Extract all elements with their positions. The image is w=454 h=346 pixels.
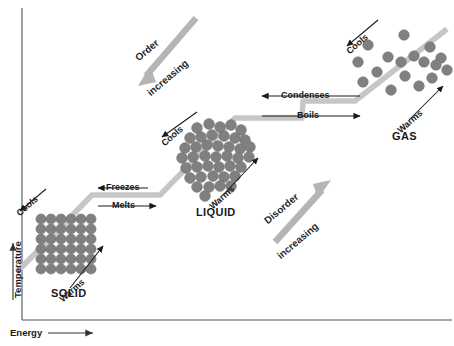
transition-label-boils: Boils — [297, 111, 319, 120]
y-axis-label: Temperature — [13, 241, 23, 298]
transition-label-melts: Melts — [112, 201, 135, 210]
heating-curve-figure: Temperature Energy SOLID LIQUID GAS Free… — [0, 0, 454, 346]
x-axis-label: Energy — [10, 328, 42, 338]
liquid-particle-cluster — [177, 119, 256, 202]
transition-label-condenses: Condenses — [281, 91, 330, 100]
transition-label-freezes: Freezes — [106, 183, 140, 192]
